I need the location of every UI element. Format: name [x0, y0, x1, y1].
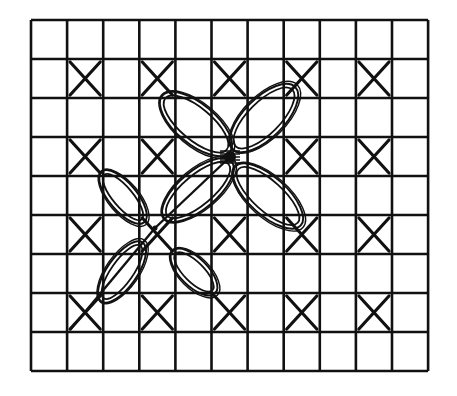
petal-icon [89, 161, 158, 235]
cross-stitch-icon [359, 62, 389, 95]
cross-stitch-icon [70, 218, 100, 251]
cross-stitches [70, 62, 389, 329]
cross-stitch-icon [215, 218, 245, 251]
cross-stitch-icon [70, 62, 100, 95]
cross-stitch-icon [359, 140, 389, 173]
cross-stitch-icon [215, 296, 245, 329]
pattern-canvas [0, 0, 457, 396]
cross-stitch-icon [359, 218, 389, 251]
cross-stitch-icon [287, 296, 317, 329]
cross-stitch-icon [142, 62, 172, 95]
cross-stitch-icon [70, 140, 100, 173]
lazy-daisy-flowers [87, 70, 316, 312]
small-flower-center-icon [153, 226, 158, 231]
cross-stitch-icon [287, 140, 317, 173]
cross-stitch-icon [359, 296, 389, 329]
cross-stitch-icon [287, 62, 317, 95]
stitch-pattern-diagram [0, 0, 457, 396]
cross-stitch-icon [215, 62, 245, 95]
cross-stitch-icon [142, 140, 172, 173]
cross-stitch-icon [142, 296, 172, 329]
